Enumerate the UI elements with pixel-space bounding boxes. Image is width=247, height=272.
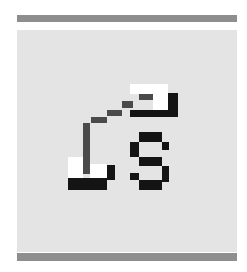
bottom-divider: [17, 253, 237, 261]
s-bottom-left: [130, 173, 139, 180]
s-left: [130, 142, 139, 157]
s-bottom: [139, 180, 162, 190]
l-bottom: [68, 178, 107, 190]
hook-bottom: [130, 110, 176, 117]
s-top: [139, 132, 162, 142]
l-highlight: [68, 157, 83, 178]
connector-vertical: [83, 123, 90, 174]
hook-highlight-inner: [153, 94, 168, 110]
s-right: [162, 166, 169, 182]
l-right: [107, 165, 115, 180]
s-top-right: [162, 142, 169, 150]
hook-highlight: [130, 84, 168, 94]
s-middle: [139, 157, 162, 166]
connector-step-1: [122, 101, 133, 108]
connector-step-3: [91, 117, 107, 123]
connector-step-2: [107, 110, 122, 116]
ls-link-icon[interactable]: LS: [0, 0, 247, 272]
l-highlight-right: [90, 164, 107, 178]
hook-shade: [139, 94, 153, 100]
